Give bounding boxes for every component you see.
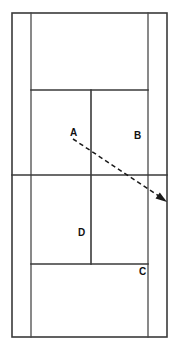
court-position-label-d: D: [78, 228, 85, 238]
court-svg: [0, 0, 181, 350]
court-position-label-c: C: [139, 267, 146, 277]
court-position-label-a: A: [70, 128, 77, 138]
shot-trajectory-arrowhead: [156, 193, 168, 203]
tennis-court-diagram: A B C D: [0, 0, 181, 350]
court-position-label-b: B: [134, 131, 141, 141]
